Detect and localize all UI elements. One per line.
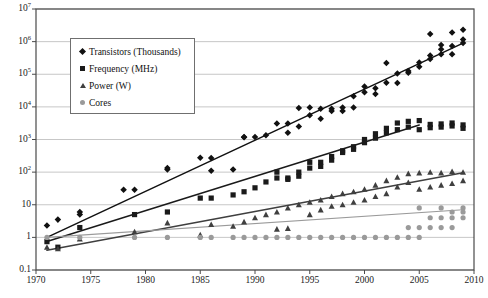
y-tick-label: 104 — [0, 102, 31, 112]
data-point — [307, 235, 312, 240]
data-point — [395, 120, 400, 125]
data-point — [274, 175, 279, 180]
data-point — [285, 130, 292, 137]
legend-item-power: Power (W) — [76, 77, 189, 94]
data-point — [340, 191, 346, 197]
data-point — [263, 235, 268, 240]
data-point — [241, 235, 246, 240]
x-tick-label: 1990 — [235, 276, 275, 286]
data-point — [252, 215, 258, 221]
y-tick-label: 103 — [0, 135, 31, 145]
data-point — [449, 180, 455, 186]
data-point — [460, 178, 466, 184]
data-point — [362, 235, 367, 240]
data-point — [230, 223, 236, 229]
data-point — [77, 225, 82, 230]
x-tick-label: 1975 — [71, 276, 111, 286]
data-point — [428, 225, 433, 230]
data-point — [198, 235, 203, 240]
data-point — [274, 120, 281, 127]
data-point — [439, 225, 444, 230]
chart-legend: Transistors (Thousands) Frequency (MHz) … — [70, 38, 195, 114]
data-point — [372, 193, 378, 199]
y-tick-label: 105 — [0, 69, 31, 79]
data-point — [406, 235, 411, 240]
data-point — [340, 235, 345, 240]
data-point — [428, 125, 433, 130]
x-tick-label: 2005 — [399, 276, 439, 286]
data-point — [351, 199, 357, 205]
data-point — [428, 215, 433, 220]
data-point — [394, 80, 401, 87]
data-point — [460, 215, 465, 220]
data-point — [406, 124, 411, 129]
data-point — [438, 42, 445, 49]
data-point — [274, 209, 280, 215]
data-point — [252, 235, 257, 240]
figure-caption — [6, 288, 482, 298]
data-point — [317, 116, 324, 123]
data-point — [132, 212, 137, 217]
data-point — [208, 168, 215, 175]
data-point — [318, 164, 323, 169]
data-point — [296, 235, 301, 240]
data-point — [318, 235, 323, 240]
data-point — [285, 235, 290, 240]
data-point — [209, 235, 214, 240]
data-point — [231, 192, 236, 197]
data-point — [417, 205, 422, 210]
x-tick-label: 1980 — [126, 276, 166, 286]
data-point — [209, 195, 214, 200]
data-point — [427, 184, 433, 190]
data-point — [339, 104, 346, 111]
y-tick-label: 1 — [0, 232, 31, 242]
data-point — [460, 27, 467, 34]
data-point — [460, 205, 465, 210]
x-tick-label: 2000 — [345, 276, 385, 286]
data-point — [450, 209, 455, 214]
data-point — [241, 219, 247, 225]
data-point — [307, 212, 313, 218]
data-point — [384, 130, 389, 135]
data-point — [373, 235, 378, 240]
y-tick-label: 0.1 — [0, 265, 31, 275]
x-tick-label: 1985 — [180, 276, 220, 286]
data-point — [372, 85, 379, 92]
data-point — [44, 235, 49, 240]
data-point — [406, 225, 411, 230]
data-point — [372, 182, 378, 188]
data-point — [351, 235, 356, 240]
data-point — [241, 189, 246, 194]
data-point — [395, 127, 400, 132]
data-point — [416, 170, 422, 176]
x-tick-label: 2010 — [454, 276, 488, 286]
square-icon — [76, 66, 89, 71]
data-point — [362, 186, 368, 192]
data-point — [438, 182, 444, 188]
legend-item-transistors: Transistors (Thousands) — [76, 43, 189, 60]
data-point — [383, 60, 390, 67]
data-point — [439, 215, 444, 220]
data-point — [263, 212, 269, 218]
data-point — [449, 168, 455, 174]
legend-label: Transistors (Thousands) — [89, 47, 181, 57]
data-point — [417, 225, 422, 230]
data-point — [438, 170, 444, 176]
data-point — [417, 235, 422, 240]
data-point — [165, 209, 170, 214]
chart-figure: 0.1110102103104105106107 197019751980198… — [0, 0, 488, 298]
data-point — [351, 147, 356, 152]
data-point — [394, 70, 401, 77]
data-point — [55, 216, 62, 223]
data-point — [132, 235, 137, 240]
data-point — [439, 205, 444, 210]
data-point — [306, 104, 313, 111]
data-point — [416, 186, 422, 192]
data-point — [450, 225, 455, 230]
data-point — [395, 235, 400, 240]
data-point — [329, 235, 334, 240]
data-point — [307, 160, 312, 165]
legend-label: Power (W) — [89, 81, 131, 91]
data-point — [44, 222, 51, 229]
triangle-icon — [76, 83, 89, 88]
